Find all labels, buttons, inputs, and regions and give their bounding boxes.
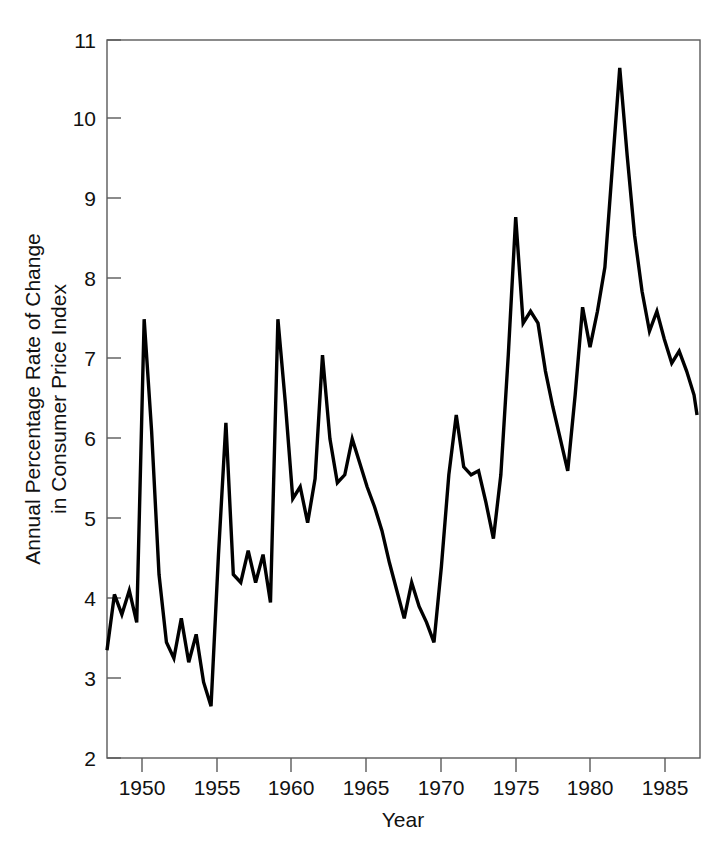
x-tick-marks [142,758,665,772]
x-tick-label: 1975 [493,776,540,799]
y-axis-title-line1: Annual Percentage Rate of Change [21,233,44,565]
x-tick-label: 1970 [418,776,465,799]
y-axis-title-line2: in Consumer Price Index [47,284,70,514]
x-tick-label: 1955 [194,776,241,799]
y-tick-label: 7 [84,347,96,370]
y-tick-label: 3 [84,667,96,690]
y-tick-label: 2 [84,747,96,770]
y-tick-labels: 2 3 4 5 6 7 8 9 10 11 [73,29,97,770]
x-tick-label: 1965 [343,776,390,799]
y-tick-marks [107,40,121,758]
x-tick-label: 1950 [119,776,166,799]
cpi-series-line [107,68,697,706]
x-tick-label: 1980 [567,776,614,799]
y-tick-label: 9 [84,187,96,210]
cpi-line-chart: 2 3 4 5 6 7 8 9 10 11 1950 1955 1960 196… [0,0,728,842]
x-tick-label: 1960 [268,776,315,799]
plot-frame [107,40,700,758]
y-tick-label: 8 [84,267,96,290]
y-tick-label: 4 [84,587,96,610]
x-tick-labels: 1950 1955 1960 1965 1970 1975 1980 1985 [119,776,689,799]
y-tick-label: 6 [84,427,96,450]
y-tick-label: 11 [74,29,96,52]
y-tick-label: 5 [84,507,96,530]
chart-figure: 2 3 4 5 6 7 8 9 10 11 1950 1955 1960 196… [0,0,728,842]
y-tick-label: 10 [73,107,96,130]
x-axis-title: Year [382,808,424,831]
x-tick-label: 1985 [642,776,689,799]
